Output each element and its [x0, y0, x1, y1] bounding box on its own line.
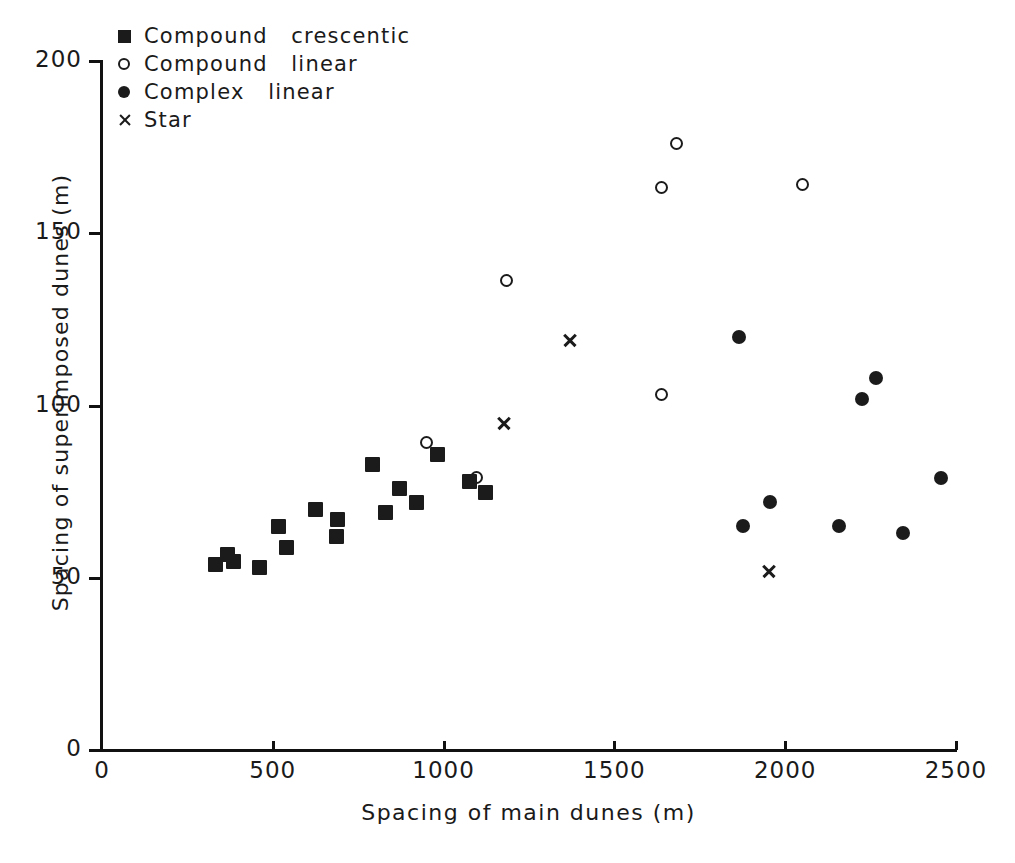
x-axis-tick	[955, 741, 958, 750]
data-point	[500, 274, 513, 287]
legend-item-complex-linear[interactable]: Complex linear	[118, 78, 498, 106]
data-point	[796, 178, 809, 191]
filled-circle-icon	[118, 86, 144, 98]
x-axis-tick	[272, 741, 275, 750]
data-point	[934, 471, 948, 485]
y-axis-tick	[89, 405, 101, 408]
data-point	[378, 505, 393, 520]
x-marker-icon	[118, 113, 144, 127]
data-point	[430, 447, 445, 462]
legend-item-label: Compound linear	[144, 52, 358, 76]
data-point	[271, 519, 286, 534]
data-point	[736, 519, 750, 533]
legend-item-star[interactable]: Star	[118, 106, 498, 134]
legend: Compound crescentic Compound linear Comp…	[118, 22, 498, 134]
legend-item-compound-crescentic[interactable]: Compound crescentic	[118, 22, 498, 50]
data-point	[763, 495, 777, 509]
data-point	[329, 529, 344, 544]
data-point	[470, 471, 483, 484]
data-point	[869, 371, 883, 385]
data-point	[562, 332, 578, 348]
x-axis-line	[100, 749, 957, 752]
x-axis-tick-label: 1500	[554, 757, 674, 783]
legend-item-label: Star	[144, 108, 192, 132]
y-axis-tick	[89, 577, 101, 580]
data-point	[478, 485, 493, 500]
y-axis-title: Spacing of superimposed dunes (m)	[48, 33, 73, 753]
data-point	[252, 560, 267, 575]
open-circle-icon	[118, 58, 144, 70]
x-axis-tick	[613, 741, 616, 750]
data-point	[732, 330, 746, 344]
data-point	[496, 415, 512, 431]
y-axis-tick	[89, 60, 101, 63]
data-point	[226, 554, 241, 569]
y-axis-tick	[89, 232, 101, 235]
data-point	[279, 540, 294, 555]
data-point	[761, 563, 777, 579]
x-axis-tick	[443, 741, 446, 750]
data-point	[330, 512, 345, 527]
legend-item-compound-linear[interactable]: Compound linear	[118, 50, 498, 78]
x-axis-tick-label: 0	[42, 757, 162, 783]
data-point	[409, 495, 424, 510]
data-point	[670, 137, 683, 150]
x-axis-tick-label: 2500	[896, 757, 1015, 783]
data-point	[308, 502, 323, 517]
data-point	[655, 388, 668, 401]
legend-item-label: Compound crescentic	[144, 24, 410, 48]
x-axis-tick	[784, 741, 787, 750]
data-point	[365, 457, 380, 472]
data-point	[896, 526, 910, 540]
y-axis-tick	[89, 749, 101, 752]
filled-square-icon	[118, 30, 144, 43]
data-point	[832, 519, 846, 533]
scatter-plot-figure: Compound crescentic Compound linear Comp…	[0, 0, 1015, 863]
x-axis-title: Spacing of main dunes (m)	[100, 800, 957, 825]
data-point	[655, 181, 668, 194]
data-point	[392, 481, 407, 496]
data-point	[855, 392, 869, 406]
x-axis-tick-label: 2000	[725, 757, 845, 783]
x-axis-tick-label: 500	[213, 757, 333, 783]
legend-item-label: Complex linear	[144, 80, 335, 104]
x-axis-tick-label: 1000	[384, 757, 504, 783]
